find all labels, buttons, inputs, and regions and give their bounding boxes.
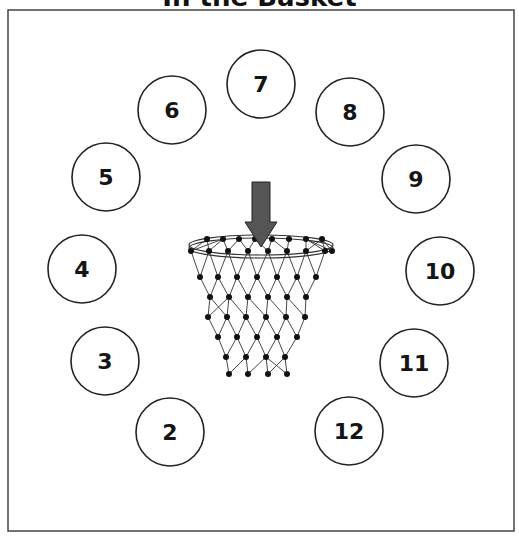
net-strand	[237, 317, 246, 337]
net-strand	[268, 297, 286, 317]
net-knot	[286, 236, 292, 242]
net-strand	[266, 317, 277, 337]
net-knot	[313, 274, 319, 280]
net-knot	[245, 248, 251, 254]
net-strand	[257, 277, 268, 297]
net-knot	[197, 274, 203, 280]
net-strand	[218, 251, 228, 277]
net-knot	[236, 236, 242, 242]
net-strand	[287, 251, 297, 277]
net-knot	[206, 248, 212, 254]
net-strand	[316, 251, 325, 277]
net-knot	[225, 248, 231, 254]
net-strand	[286, 317, 297, 337]
net-strand	[297, 251, 306, 277]
net-strand	[287, 297, 305, 317]
net-strand	[237, 337, 246, 357]
number-circle-12: 12	[315, 397, 383, 465]
net-knot	[294, 274, 300, 280]
net-strand	[191, 251, 200, 277]
net-strand	[287, 277, 297, 297]
net-knot	[302, 314, 308, 320]
net-knot	[294, 334, 300, 340]
circle-number-label: 10	[425, 259, 456, 284]
net-strand	[257, 317, 266, 337]
net-knot	[254, 334, 260, 340]
net-knot	[265, 371, 271, 377]
circle-number-label: 8	[342, 100, 357, 125]
net-strand	[297, 317, 305, 337]
net-strand	[246, 317, 257, 337]
number-circle-2: 2	[136, 398, 204, 466]
net-strand	[248, 277, 257, 297]
net-knot	[215, 274, 221, 280]
net-knot	[319, 236, 325, 242]
net-knot	[234, 274, 240, 280]
net-knot	[265, 248, 271, 254]
diagram-canvas: 23456789101112	[0, 0, 519, 539]
net-strand	[227, 317, 237, 337]
net-knot	[282, 354, 288, 360]
net-strand	[285, 337, 297, 357]
net-strand	[297, 277, 306, 297]
net-knot	[224, 314, 230, 320]
number-circle-4: 4	[48, 235, 116, 303]
number-circle-8: 8	[316, 78, 384, 146]
net-strand	[305, 297, 306, 317]
net-strand	[210, 297, 227, 317]
net-knot	[245, 371, 251, 377]
net-strand	[200, 277, 210, 297]
net-strand	[268, 277, 277, 297]
number-circle-9: 9	[382, 145, 450, 213]
net-strand	[210, 277, 218, 297]
net-knot	[243, 314, 249, 320]
net-knot	[303, 248, 309, 254]
net-knot	[284, 371, 290, 377]
number-circle-10: 10	[406, 237, 474, 305]
net-strand	[277, 317, 286, 337]
number-circle-5: 5	[72, 143, 140, 211]
net-knot	[205, 314, 211, 320]
net-strand	[229, 357, 246, 374]
net-knot	[243, 354, 249, 360]
net-knot	[274, 274, 280, 280]
net-strand	[229, 277, 237, 297]
net-knot	[207, 294, 213, 300]
net-strand	[208, 317, 218, 337]
net-knot	[322, 248, 328, 254]
circle-number-label: 11	[399, 351, 430, 376]
number-circle-6: 6	[138, 76, 206, 144]
circle-number-label: 6	[164, 98, 179, 123]
net-knot	[283, 314, 289, 320]
net-strand	[218, 317, 227, 337]
net-knot	[245, 294, 251, 300]
net-knot	[284, 294, 290, 300]
circle-number-label: 5	[98, 165, 113, 190]
net-strand	[246, 297, 248, 317]
net-strand	[226, 337, 237, 357]
circle-number-label: 7	[253, 72, 268, 97]
net-knot	[223, 354, 229, 360]
circle-number-label: 9	[408, 167, 423, 192]
net-knot	[226, 371, 232, 377]
number-circle-7: 7	[227, 50, 295, 118]
number-circle-11: 11	[380, 329, 448, 397]
net-knot	[263, 314, 269, 320]
net-strand	[306, 277, 316, 297]
net-knot	[188, 248, 194, 254]
net-knot	[274, 334, 280, 340]
net-strand	[257, 337, 266, 357]
net-knot	[226, 294, 232, 300]
net-knot	[284, 248, 290, 254]
basketball-hoop-icon	[188, 235, 335, 377]
net-knot	[329, 248, 335, 254]
net-knot	[269, 236, 275, 242]
net-strand	[286, 297, 287, 317]
net-strand	[218, 277, 229, 297]
net-strand	[229, 297, 246, 317]
net-strand	[208, 297, 210, 317]
net-strand	[218, 337, 226, 357]
net-knot	[303, 294, 309, 300]
net-knot	[204, 236, 210, 242]
net-knot	[254, 274, 260, 280]
